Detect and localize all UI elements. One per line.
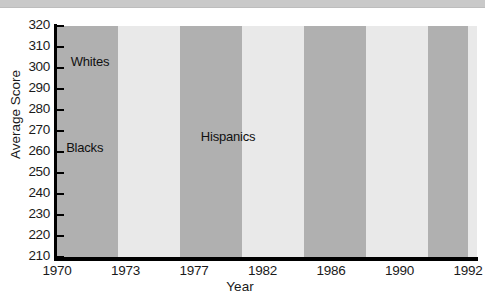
background-band bbox=[366, 26, 428, 257]
series-label-blacks: Blacks bbox=[66, 140, 103, 155]
y-axis-tick-label: 210 bbox=[2, 248, 50, 263]
x-axis-tick-label: 1973 bbox=[96, 263, 156, 278]
background-band bbox=[304, 26, 366, 257]
chart-canvas: Whites Blacks Hispanics 3203103002902802… bbox=[0, 7, 485, 293]
y-axis-line bbox=[54, 24, 57, 259]
x-axis-tick-label: 1970 bbox=[27, 263, 87, 278]
y-axis-tick bbox=[57, 256, 64, 258]
x-axis-title: Year bbox=[185, 279, 295, 293]
y-axis-tick bbox=[57, 130, 64, 132]
y-axis-tick bbox=[57, 88, 64, 90]
y-axis-tick bbox=[57, 67, 64, 69]
background-band bbox=[428, 26, 468, 257]
background-band bbox=[468, 26, 477, 257]
y-axis-tick bbox=[57, 109, 64, 111]
y-axis-tick bbox=[57, 46, 64, 48]
background-band bbox=[118, 26, 180, 257]
x-axis-tick-label: 1977 bbox=[164, 263, 224, 278]
x-axis-tick-label: 1990 bbox=[370, 263, 430, 278]
y-axis-tick-label: 230 bbox=[2, 206, 50, 221]
y-axis-tick bbox=[57, 151, 64, 153]
plot-area: Whites Blacks Hispanics bbox=[57, 26, 477, 257]
y-axis-tick bbox=[57, 214, 64, 216]
series-label-whites: Whites bbox=[71, 54, 110, 69]
y-axis-tick-label: 320 bbox=[2, 17, 50, 32]
x-axis-tick-label: 1982 bbox=[233, 263, 293, 278]
x-axis-tick-label: 1986 bbox=[301, 263, 361, 278]
series-label-hispanics: Hispanics bbox=[201, 129, 256, 144]
y-axis-tick bbox=[57, 193, 64, 195]
y-axis-tick bbox=[57, 172, 64, 174]
y-axis-tick bbox=[57, 25, 64, 27]
y-axis-tick bbox=[57, 235, 64, 237]
y-axis-title: Average Score bbox=[8, 45, 23, 185]
x-axis-tick-label: 1992 bbox=[438, 263, 485, 278]
x-axis-line bbox=[54, 257, 478, 261]
y-axis-tick-label: 240 bbox=[2, 185, 50, 200]
y-axis-tick-label: 220 bbox=[2, 227, 50, 242]
